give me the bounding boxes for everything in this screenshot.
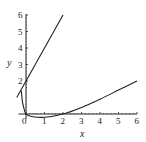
x-tick-label: 0	[22, 116, 27, 126]
series-line	[17, 15, 63, 98]
y-axis-label: y	[6, 57, 12, 68]
x-tick-label: 3	[79, 116, 84, 126]
y-tick-label: 2	[18, 76, 23, 86]
series	[17, 15, 137, 117]
y-tick-label: 6	[18, 10, 23, 20]
x-axis-label: x	[79, 128, 85, 139]
x-tick-label: 4	[98, 116, 103, 126]
series-curve	[21, 81, 137, 117]
axes	[19, 14, 137, 119]
y-tick-label: 3	[18, 60, 23, 70]
x-tick-label: 6	[135, 116, 140, 126]
y-tick-label: 4	[18, 43, 23, 53]
plot: 012345623456 x y	[0, 0, 146, 142]
x-tick-label: 5	[116, 116, 121, 126]
x-tick-label: 2	[61, 116, 66, 126]
y-tick-label: 5	[18, 27, 23, 37]
